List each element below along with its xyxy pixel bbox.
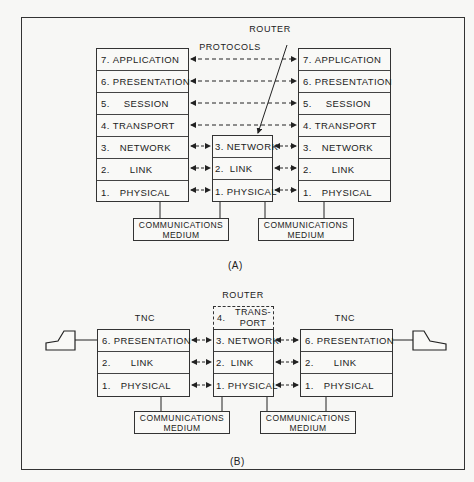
figure-frame [21, 17, 465, 470]
layer-row: 7. APPLICATION [299, 49, 390, 71]
layer-number: 4. [217, 313, 225, 323]
layer-number: 2. [303, 164, 312, 175]
medium-line2: MEDIUM [261, 423, 355, 433]
layer-label: PHYSICAL [120, 187, 170, 198]
layer-label: PRESENTATION [113, 76, 190, 87]
transport-line2: PORT [234, 318, 272, 329]
layer-label: PHYSICAL [227, 186, 277, 197]
layer-row: 6. PRESENTATION [301, 330, 392, 352]
layer-label: SESSION [326, 98, 371, 109]
tnc-stack-right-b: 6. PRESENTATION 2.LINK 1.PHYSICAL [300, 329, 393, 397]
layer-number: 7. [303, 54, 312, 65]
layer-label: LINK [231, 357, 254, 368]
router-stack-a: 3. NETWORK 2. LINK 1. PHYSICAL [212, 135, 273, 202]
layer-row: 3. NETWORK [213, 136, 272, 158]
layer-label: LINK [130, 164, 153, 175]
layer-number: 1. [101, 187, 110, 198]
router-stack-b: 3. NETWORK 2. LINK 1. PHYSICAL [213, 329, 274, 397]
optional-transport-box: 4. TRANS- PORT [213, 306, 274, 330]
layer-label: PHYSICAL [322, 187, 372, 198]
communications-medium-left-b: COMMUNICATIONS MEDIUM [134, 411, 230, 434]
layer-number: 6. [102, 335, 111, 346]
layer-number: 2. [215, 163, 224, 174]
layer-row: 5.SESSION [97, 93, 188, 115]
layer-number: 7. [101, 54, 110, 65]
layer-label: PHYSICAL [324, 380, 374, 391]
router-label-a: ROUTER [240, 24, 300, 34]
layer-label: LINK [332, 164, 355, 175]
layer-row: 6. PRESENTATION [97, 71, 188, 93]
layer-row: 5.SESSION [299, 93, 390, 115]
layer-label: APPLICATION [113, 54, 180, 65]
layer-row: 2. LINK [214, 352, 273, 374]
layer-number: 5. [303, 98, 312, 109]
layer-row: 1. PHYSICAL [213, 180, 272, 202]
layer-number: 6. [303, 76, 312, 87]
layer-label: PRESENTATION [317, 335, 394, 346]
caption-a: (A) [228, 260, 243, 271]
layer-label: LINK [334, 357, 357, 368]
layer-number: 5. [101, 98, 110, 109]
layer-label: LINK [131, 357, 154, 368]
medium-line1: COMMUNICATIONS [259, 220, 353, 230]
layer-label: TRANSPORT [113, 120, 175, 131]
osi-stack-left-a: 7. APPLICATION 6. PRESENTATION 5.SESSION… [96, 48, 189, 202]
layer-label: NETWORK [120, 142, 171, 153]
layer-row: 1.PHYSICAL [97, 181, 188, 203]
layer-label: NETWORK [227, 141, 278, 152]
medium-line2: MEDIUM [134, 230, 228, 240]
layer-number: 2. [305, 357, 314, 368]
layer-number: 3. [215, 141, 224, 152]
medium-line1: COMMUNICATIONS [261, 413, 355, 423]
communications-medium-right-a: COMMUNICATIONS MEDIUM [258, 218, 354, 241]
layer-number: 4. [101, 120, 110, 131]
tnc-label-right: TNC [325, 313, 365, 323]
layer-label: NETWORK [228, 335, 279, 346]
layer-number: 1. [216, 380, 225, 391]
layer-label: SESSION [124, 98, 169, 109]
medium-line2: MEDIUM [259, 230, 353, 240]
layer-label: PHYSICAL [228, 380, 278, 391]
layer-label: APPLICATION [315, 54, 382, 65]
layer-number: 2. [101, 164, 110, 175]
layer-row: 2.LINK [299, 159, 390, 181]
communications-medium-left-a: COMMUNICATIONS MEDIUM [133, 218, 229, 241]
layer-label: LINK [230, 163, 253, 174]
tnc-label-left: TNC [125, 313, 165, 323]
layer-number: 2. [102, 357, 111, 368]
layer-row: 2. LINK [213, 158, 272, 180]
layer-number: 6. [305, 335, 314, 346]
layer-label: TRANSPORT [315, 120, 377, 131]
medium-line1: COMMUNICATIONS [134, 220, 228, 230]
medium-line1: COMMUNICATIONS [135, 413, 229, 423]
transport-label: TRANS- PORT [234, 307, 272, 329]
layer-number: 3. [101, 142, 110, 153]
layer-number: 6. [101, 76, 110, 87]
communications-medium-right-b: COMMUNICATIONS MEDIUM [260, 411, 356, 434]
layer-number: 1. [305, 380, 314, 391]
layer-row: 1. PHYSICAL [214, 374, 273, 396]
layer-number: 4. [303, 120, 312, 131]
caption-b: (B) [230, 456, 245, 467]
tnc-stack-left-b: 6. PRESENTATION 2.LINK 1.PHYSICAL [97, 329, 190, 397]
protocols-label: PROTOCOLS [190, 42, 270, 52]
layer-label: PRESENTATION [114, 335, 191, 346]
layer-number: 1. [102, 380, 111, 391]
layer-row: 2.LINK [301, 352, 392, 374]
layer-number: 3. [216, 335, 225, 346]
layer-row: 3.NETWORK [97, 137, 188, 159]
layer-row: 3.NETWORK [299, 137, 390, 159]
layer-number: 2. [216, 357, 225, 368]
layer-number: 1. [215, 186, 224, 197]
layer-row: 3. NETWORK [214, 330, 273, 352]
layer-row: 6. PRESENTATION [299, 71, 390, 93]
medium-line2: MEDIUM [135, 423, 229, 433]
router-label-b: ROUTER [213, 290, 273, 300]
layer-row: 7. APPLICATION [97, 49, 188, 71]
layer-number: 3. [303, 142, 312, 153]
layer-row: 4. TRANSPORT [299, 115, 390, 137]
layer-label: NETWORK [322, 142, 373, 153]
osi-stack-right-a: 7. APPLICATION 6. PRESENTATION 5.SESSION… [298, 48, 391, 202]
layer-label: PHYSICAL [121, 380, 171, 391]
layer-row: 1.PHYSICAL [299, 181, 390, 203]
